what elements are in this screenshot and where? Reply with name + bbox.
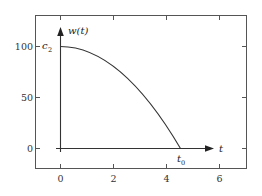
w-axis-label: w(t) (68, 25, 88, 36)
x-tick-label-2: 2 (110, 173, 116, 184)
x-tick-label-0: 0 (57, 173, 63, 184)
svg-text:0: 0 (181, 159, 185, 167)
y-tick-label-50: 50 (21, 92, 33, 103)
y-tick-label-0: 0 (27, 143, 33, 154)
t-axis-label: t (219, 143, 224, 154)
x-tick-label-6: 6 (216, 173, 222, 184)
t0-annotation: t 0 (177, 153, 185, 167)
y-ticks (36, 47, 246, 149)
t-axis-arrow-icon (205, 145, 214, 152)
w-axis-arrow-icon (57, 27, 64, 36)
chart: 0 2 4 6 0 50 100 w(t) t c 2 t 0 (0, 0, 262, 196)
y-tick-label-100: 100 (15, 41, 33, 52)
x-tick-label-4: 4 (163, 173, 169, 184)
c2-annotation: c 2 (42, 40, 52, 54)
curve-w-t (61, 47, 181, 149)
svg-text:2: 2 (48, 46, 52, 54)
